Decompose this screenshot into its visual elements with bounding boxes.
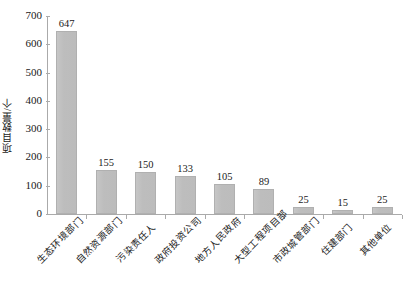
- y-tick: 500: [47, 73, 51, 74]
- bar-value-label: 89: [259, 176, 270, 188]
- y-tick-mark: [46, 16, 50, 17]
- x-tick-mark: [165, 215, 166, 219]
- bar[interactable]: 25: [293, 207, 314, 214]
- x-tick-mark: [205, 215, 206, 219]
- x-axis-line: [47, 214, 402, 215]
- y-tick-label: 600: [26, 37, 43, 50]
- bar[interactable]: 133: [175, 176, 196, 214]
- y-tick-mark: [46, 157, 50, 158]
- y-axis-title: 项目数量/个: [0, 60, 16, 190]
- bar[interactable]: 25: [372, 207, 393, 214]
- y-tick-mark: [46, 129, 50, 130]
- bar[interactable]: 105: [214, 184, 235, 214]
- x-tick-mark: [126, 215, 127, 219]
- y-tick-mark: [46, 73, 50, 74]
- bar-value-label: 25: [298, 194, 309, 206]
- y-tick-mark: [46, 44, 50, 45]
- bar[interactable]: 15: [332, 210, 353, 214]
- bar[interactable]: 89: [253, 189, 274, 214]
- y-tick: 600: [47, 44, 51, 45]
- y-tick-label: 300: [26, 122, 43, 135]
- y-tick-mark: [46, 186, 50, 187]
- y-tick-label: 200: [26, 150, 43, 163]
- bar-value-label: 647: [59, 18, 75, 30]
- y-tick: 400: [47, 101, 51, 102]
- bar-value-label: 15: [338, 197, 349, 209]
- y-tick-mark: [46, 214, 50, 215]
- y-tick-label: 700: [26, 9, 43, 22]
- x-category-label: 住建部门: [310, 221, 355, 266]
- y-tick: 100: [47, 186, 51, 187]
- bar-value-label: 105: [217, 171, 233, 183]
- y-tick-label: 500: [26, 66, 43, 79]
- y-tick: 200: [47, 157, 51, 158]
- x-category-label: 污染责任人: [113, 221, 158, 266]
- x-category-label: 政府投资公司: [152, 221, 197, 266]
- y-tick-mark: [46, 101, 50, 102]
- y-tick-label: 100: [26, 179, 43, 192]
- bar[interactable]: 647: [56, 31, 77, 214]
- x-category-label: 生态环境部门: [34, 221, 79, 266]
- x-tick-mark: [402, 215, 403, 219]
- y-tick-label: 0: [37, 207, 43, 220]
- x-category-label: 地方人民政府: [192, 221, 237, 266]
- x-category-label: 自然资源部门: [73, 221, 118, 266]
- bar-value-label: 150: [138, 159, 154, 171]
- bar-chart: 项目数量/个 0100200300400500600700 6471551501…: [0, 0, 408, 302]
- x-tick-mark: [86, 215, 87, 219]
- y-tick: 300: [47, 129, 51, 130]
- bar-value-label: 155: [98, 157, 114, 169]
- x-tick-mark: [363, 215, 364, 219]
- bar[interactable]: 150: [135, 172, 156, 214]
- bar-value-label: 25: [377, 194, 388, 206]
- x-category-label: 市政城管部门: [271, 221, 316, 266]
- y-tick: 0: [47, 214, 51, 215]
- bar-value-label: 133: [177, 163, 193, 175]
- x-tick-mark: [323, 215, 324, 219]
- y-tick-label: 400: [26, 94, 43, 107]
- x-tick-mark: [244, 215, 245, 219]
- y-tick: 700: [47, 16, 51, 17]
- bar[interactable]: 155: [96, 170, 117, 214]
- plot-area: 0100200300400500600700 64715515013310589…: [47, 17, 402, 215]
- x-category-label: 大型工程项目部: [231, 221, 276, 266]
- x-category-label: 其他单位: [349, 221, 394, 266]
